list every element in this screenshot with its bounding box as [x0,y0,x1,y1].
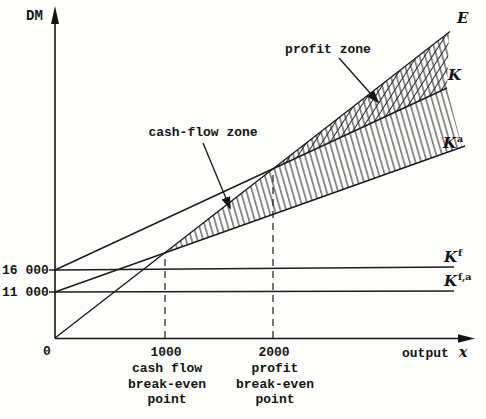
cash-flow-zone-arrow [203,143,230,208]
line-label-K-base: K [448,66,461,84]
line-label-Kfa-sup: f,a [458,271,471,282]
line-label-E-base: E [457,9,468,27]
total-cost-line-K [55,88,447,270]
y-axis-arrow [51,6,59,24]
profit-zone-label: profit zone [285,43,371,57]
break-even-chart: DM 0 16 000 11 000 1000 2000 output x pr… [0,0,486,419]
x-tick-label-2000: 2000 [258,346,289,360]
line-label-K: K [448,67,462,84]
line-label-Kf-sup: f [458,247,462,258]
cash-flow-zone-area [165,88,463,253]
fixed-cost-line-Kf [55,267,454,270]
profit-breakeven-line3: point [236,392,314,408]
x-axis-caption: output [402,347,449,361]
cash-flow-breakeven-caption: cash flow break-even point [128,361,206,408]
x-axis-variable: x [459,345,467,360]
x-axis-arrow [458,334,475,342]
cash-flow-breakeven-line3: point [128,392,206,408]
y-tick-label-11000: 11 000 [2,286,46,300]
profit-zone-arrow [339,58,378,102]
line-label-Ka: Ka [443,135,463,152]
cash-flow-breakeven-line1: cash flow [128,361,206,377]
line-label-E: E [457,10,469,27]
y-tick-label-16000: 16 000 [2,264,46,278]
profit-breakeven-line1: profit [236,361,314,377]
y-axis-unit-label: DM [26,9,43,24]
x-tick-label-1000: 1000 [150,346,181,360]
profit-breakeven-caption: profit break-even point [236,361,314,408]
profit-breakeven-line2: break-even [236,377,314,393]
line-label-Kf: Kf [444,249,462,266]
cash-flow-zone-label: cash-flow zone [148,126,257,140]
cash-flow-breakeven-line2: break-even [128,377,206,393]
origin-label: 0 [43,345,51,359]
line-label-Kf-base: K [444,248,457,266]
line-label-Ka-base: K [443,134,456,152]
line-label-Ka-sup: a [457,133,463,144]
line-label-Kfa: Kf,a [444,273,471,290]
line-label-Kfa-base: K [444,272,457,290]
